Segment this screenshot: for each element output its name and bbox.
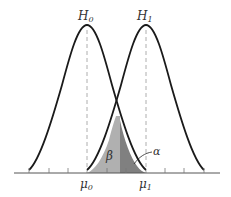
h0-label: H0 (77, 9, 94, 24)
h0-curve (29, 25, 146, 170)
h1-label: H1 (136, 9, 153, 24)
alpha-label: α (153, 145, 161, 158)
hypothesis-diagram: H0 H1 μ0 μ1 β α (0, 0, 231, 197)
beta-label: β (105, 149, 113, 163)
h1-curve (87, 25, 204, 170)
mu0-label: μ0 (80, 177, 93, 192)
mu1-label: μ1 (139, 177, 152, 192)
